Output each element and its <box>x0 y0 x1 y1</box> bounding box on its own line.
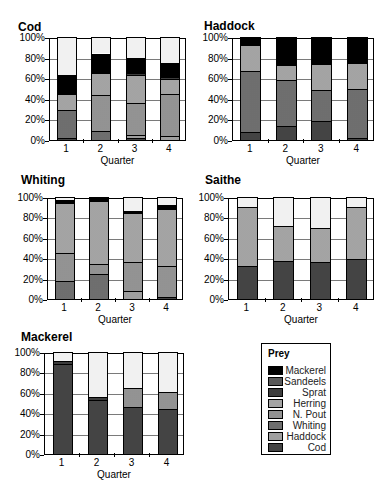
legend-label: N. Pout <box>293 409 326 420</box>
legend-swatch-icon <box>268 366 283 375</box>
y-tick-mark <box>40 373 44 374</box>
legend-swatch-icon <box>268 421 283 430</box>
y-tick-label: 40% <box>13 95 45 105</box>
y-tick-mark <box>43 198 47 199</box>
x-tick-label: 4 <box>159 458 175 468</box>
bar-segment-cod <box>238 266 257 299</box>
x-tick-mark <box>265 298 266 302</box>
y-tick-mark <box>40 414 44 415</box>
bar-quarter-3 <box>123 352 143 454</box>
bar-segment-mackerel <box>161 63 179 77</box>
bar-segment-cod <box>58 138 76 140</box>
bar-quarter-3 <box>126 37 146 140</box>
y-tick-mark <box>43 280 47 281</box>
legend: Prey MackerelSandeelsSpratHerringN. Pout… <box>261 343 331 455</box>
bar-quarter-2 <box>89 197 109 299</box>
y-tick-label: 0% <box>8 450 40 460</box>
bar-segment-mackerel <box>58 75 76 94</box>
y-tick-label: 40% <box>192 254 224 264</box>
bar-segment-cod <box>127 138 145 140</box>
y-tick-label: 20% <box>13 115 45 125</box>
y-tick-label: 80% <box>11 213 43 223</box>
bar-segment-haddock <box>124 291 142 299</box>
legend-item-mackerel: Mackerel <box>262 366 330 376</box>
x-tick-label: 3 <box>311 303 327 313</box>
bar-segment-cod <box>158 297 176 299</box>
chart-title-text: Mackerel <box>21 330 75 344</box>
bar-segment-npout <box>56 253 74 281</box>
y-tick-label: 60% <box>192 234 224 244</box>
bar-segment-herring <box>92 73 110 95</box>
legend-swatch-icon <box>268 399 283 408</box>
bar-segment-haddock <box>127 135 145 138</box>
bar-segment-npout <box>159 392 177 409</box>
legend-swatch-icon <box>268 377 283 386</box>
bar-quarter-3 <box>311 37 332 140</box>
legend-label: Mackerel <box>285 365 326 376</box>
bar-segment-other <box>89 352 107 397</box>
bar-segment-other <box>58 37 76 75</box>
y-tick-mark <box>224 198 228 199</box>
bar-quarter-1 <box>240 37 261 140</box>
y-tick-label: 20% <box>8 430 40 440</box>
legend-label: Whiting <box>293 420 326 431</box>
legend-item-whiting: Whiting <box>262 421 330 431</box>
bar-segment-sprat <box>127 73 145 75</box>
bar-segment-herring <box>347 207 366 259</box>
bar-segment-herring <box>161 79 179 93</box>
x-tick-label: 4 <box>158 303 174 313</box>
legend-item-sprat: Sprat <box>262 388 330 398</box>
y-tick-mark <box>228 59 232 60</box>
x-tick-mark <box>339 139 340 143</box>
legend-label: Haddock <box>287 431 326 442</box>
x-tick-mark <box>79 453 80 457</box>
bar-segment-cod <box>159 409 177 454</box>
plot-area <box>44 353 184 455</box>
bar-segment-mackerel <box>158 205 176 209</box>
y-tick-label: 40% <box>8 409 40 419</box>
x-axis-label: Quarter <box>263 156 343 166</box>
x-axis-label: Quarter <box>78 156 158 166</box>
y-tick-mark <box>228 141 232 142</box>
x-tick-mark <box>338 298 339 302</box>
x-tick-label: 3 <box>127 144 143 154</box>
y-tick-label: 40% <box>11 254 43 264</box>
bar-segment-herring <box>312 64 331 90</box>
y-tick-mark <box>228 79 232 80</box>
x-tick-mark <box>83 139 84 143</box>
y-tick-mark <box>228 100 232 101</box>
legend-title: Prey <box>268 348 290 359</box>
bar-segment-cod <box>89 400 107 454</box>
plot-area <box>47 198 183 300</box>
chart-title: Whiting <box>21 173 194 187</box>
y-tick-label: 100% <box>192 193 224 203</box>
chart-title-text: Saithe <box>205 173 244 187</box>
bar-segment-mackerel <box>277 37 296 65</box>
y-tick-label: 60% <box>8 389 40 399</box>
bar-quarter-4 <box>158 352 178 454</box>
bar-quarter-1 <box>237 197 258 299</box>
bar-segment-whiting <box>92 131 110 140</box>
bar-quarter-2 <box>273 197 294 299</box>
bar-quarter-2 <box>91 37 111 140</box>
bar-segment-herring <box>124 213 142 262</box>
bar-segment-herring <box>311 228 330 263</box>
x-tick-mark <box>81 298 82 302</box>
bar-quarter-4 <box>157 197 177 299</box>
x-tick-mark <box>115 298 116 302</box>
y-tick-mark <box>45 79 49 80</box>
bar-segment-other <box>161 37 179 63</box>
x-tick-label: 3 <box>313 144 329 154</box>
bar-quarter-1 <box>57 37 77 140</box>
legend-label: Herring <box>293 398 326 409</box>
x-tick-label: 1 <box>58 144 74 154</box>
y-tick-mark <box>40 353 44 354</box>
y-tick-label: 20% <box>192 275 224 285</box>
x-tick-label: 2 <box>89 458 105 468</box>
bar-quarter-4 <box>160 37 180 140</box>
y-tick-label: 80% <box>192 213 224 223</box>
bar-segment-herring <box>277 65 296 80</box>
bar-segment-whiting <box>90 274 108 300</box>
bar-segment-herring <box>56 203 74 253</box>
bar-segment-whiting <box>58 110 76 138</box>
